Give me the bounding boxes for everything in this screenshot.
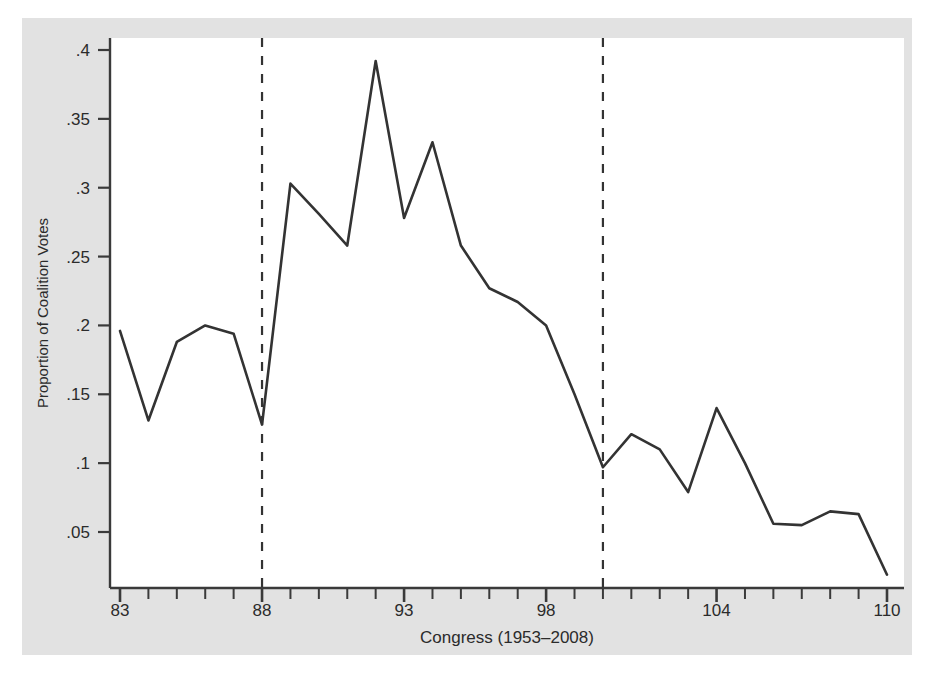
y-tick-label: .35 [66, 110, 90, 129]
plot-area-background [110, 38, 904, 588]
x-tick-label: 88 [253, 601, 272, 620]
figure-panel: .05.1.15.2.25.3.35.4 83889398104110 Prop… [22, 18, 912, 655]
y-tick-label: .05 [66, 523, 90, 542]
y-axis-title: Proportion of Coalition Votes [34, 218, 51, 408]
x-axis-ticks [120, 588, 887, 602]
x-axis-tick-labels: 83889398104110 [111, 601, 901, 620]
y-tick-label: .2 [76, 316, 90, 335]
x-tick-label: 110 [873, 601, 900, 620]
coalition-votes-line-chart: .05.1.15.2.25.3.35.4 83889398104110 Prop… [22, 18, 912, 655]
y-tick-label: .3 [76, 179, 90, 198]
y-tick-label: .25 [66, 248, 90, 267]
x-tick-label: 83 [111, 601, 130, 620]
y-tick-label: .4 [76, 41, 90, 60]
x-tick-label: 93 [395, 601, 414, 620]
x-tick-label: 98 [537, 601, 556, 620]
x-tick-label: 104 [702, 601, 730, 620]
y-tick-label: .15 [66, 385, 90, 404]
y-axis-ticks [98, 50, 110, 532]
y-tick-label: .1 [76, 454, 90, 473]
y-axis-tick-labels: .05.1.15.2.25.3.35.4 [66, 41, 90, 542]
x-axis-title: Congress (1953–2008) [420, 628, 594, 647]
